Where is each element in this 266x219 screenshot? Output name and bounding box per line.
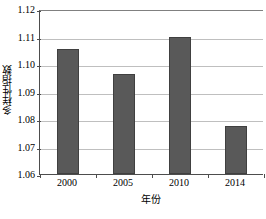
x-tick-label: 2014 xyxy=(225,178,245,188)
bar[interactable] xyxy=(57,49,79,174)
bar-slot xyxy=(96,11,152,174)
y-tick-label: 1.10 xyxy=(18,60,36,70)
y-axis-title-text: 多样性指数 xyxy=(3,65,13,115)
bar[interactable] xyxy=(225,126,247,174)
x-tick-label: 2010 xyxy=(169,178,189,188)
bar-slot xyxy=(40,11,96,174)
x-tick-mark xyxy=(264,174,265,178)
y-tick-label: 1.06 xyxy=(18,170,36,180)
x-tick-label: 2005 xyxy=(113,178,133,188)
bars-layer xyxy=(40,11,263,174)
bar[interactable] xyxy=(113,74,135,174)
x-axis-title: 年份 xyxy=(39,195,263,205)
bar-chart: 多样性指数 1.061.071.081.091.101.111.12 20002… xyxy=(0,0,266,219)
bar[interactable] xyxy=(169,37,191,175)
y-tick-label: 1.07 xyxy=(18,143,36,153)
x-axis-tick-labels: 2000200520102014 xyxy=(39,178,263,192)
bar-slot xyxy=(152,11,208,174)
x-tick-label: 2000 xyxy=(57,178,77,188)
y-tick-label: 1.09 xyxy=(18,88,36,98)
y-tick-label: 1.12 xyxy=(18,5,36,15)
plot-area xyxy=(39,10,263,175)
y-tick-label: 1.11 xyxy=(18,33,35,43)
y-tick-label: 1.08 xyxy=(18,115,36,125)
bar-slot xyxy=(208,11,264,174)
y-axis-tick-labels: 1.061.071.081.091.101.111.12 xyxy=(14,10,38,175)
